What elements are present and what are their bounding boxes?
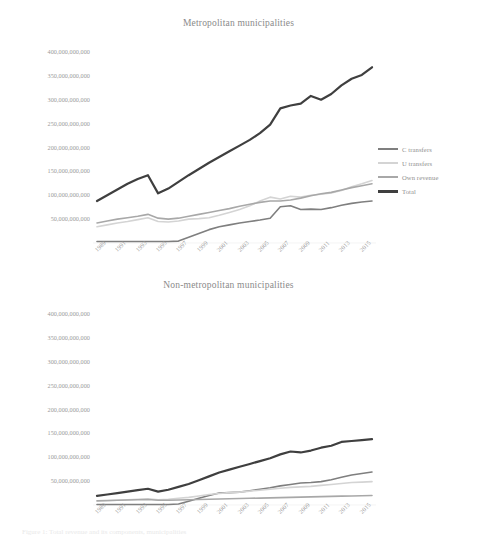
legend-metropolitan: C transfersU transfersOwn revenueTotal: [378, 142, 438, 198]
legend-label: C transfers: [402, 146, 432, 153]
plot-area-non-metropolitan: 400,000,000,000350,000,000,000300,000,00…: [0, 276, 477, 538]
legend-label: Total: [402, 188, 416, 195]
legend-swatch-icon: [378, 190, 398, 193]
series-line-total: [97, 439, 372, 496]
figure-caption: Figure 1: Total revenue and its componen…: [22, 528, 462, 536]
line-plot-non-metropolitan: [0, 276, 477, 538]
legend-label: U transfers: [402, 160, 432, 167]
legend-swatch-icon: [378, 176, 398, 178]
series-line-own-revenue: [97, 495, 372, 500]
series-line-own-revenue: [97, 184, 372, 223]
series-line-u-transfers: [97, 180, 372, 226]
chart-panel-metropolitan: Metropolitan municipalities 400,000,000,…: [0, 14, 477, 276]
legend-label: Own revenue: [402, 174, 438, 181]
chart-panel-non-metropolitan: Non-metropolitan municipalities 400,000,…: [0, 276, 477, 538]
legend-swatch-icon: [378, 162, 398, 164]
legend-item-c-transfers[interactable]: C transfers: [378, 142, 438, 156]
legend-item-own-revenue[interactable]: Own revenue: [378, 170, 438, 184]
legend-item-total[interactable]: Total: [378, 184, 438, 198]
figure-two-line-charts: Metropolitan municipalities 400,000,000,…: [0, 0, 477, 539]
series-line-total: [97, 67, 372, 201]
legend-item-u-transfers[interactable]: U transfers: [378, 156, 438, 170]
legend-swatch-icon: [378, 148, 398, 150]
